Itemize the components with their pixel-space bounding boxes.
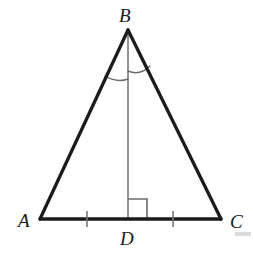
geometry-canvas: [0, 0, 253, 253]
geometry-figure: B A D C: [0, 0, 253, 253]
vertex-label-d: D: [120, 229, 134, 248]
vertex-label-c: C: [230, 212, 243, 231]
vertex-label-a: A: [18, 211, 30, 230]
canvas-background: [0, 0, 253, 253]
vertex-label-b: B: [119, 6, 131, 25]
scan-artifact: [235, 232, 251, 236]
